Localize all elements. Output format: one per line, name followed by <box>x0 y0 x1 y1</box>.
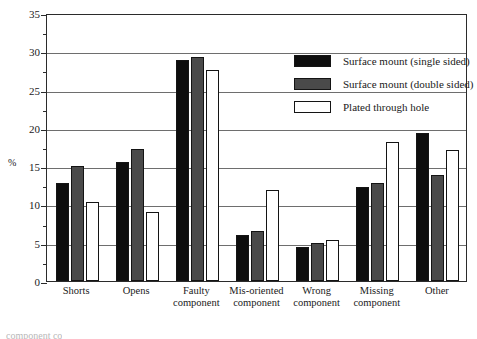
y-axis-tick <box>41 53 47 54</box>
bar <box>416 133 429 281</box>
x-axis-label: Mis-orientedcomponent <box>226 285 286 309</box>
y-axis-tick-label: 10 <box>12 200 40 211</box>
x-axis-label: Missingcomponent <box>347 285 407 309</box>
y-axis-tick-label: 5 <box>12 238 40 249</box>
x-axis-label-line: Wrong <box>287 285 347 297</box>
y-axis-minor-tick <box>43 72 47 73</box>
legend-label-series-1: Surface mount (single sided) <box>343 55 470 67</box>
bar-group <box>47 15 107 281</box>
bar <box>116 162 129 281</box>
y-axis-tick <box>41 92 47 93</box>
legend-item: Plated through hole <box>294 97 473 117</box>
y-axis-tick-label: 35 <box>12 9 40 20</box>
y-axis-tick-label: 25 <box>12 85 40 96</box>
bar <box>356 187 369 281</box>
bar-group <box>107 15 167 281</box>
y-axis-tick-label: 30 <box>12 47 40 58</box>
x-axis-label: Wrongcomponent <box>287 285 347 309</box>
y-axis-minor-tick <box>43 264 47 265</box>
x-axis-label-line: component <box>347 297 407 309</box>
x-axis-category-labels: ShortsOpensFaultycomponentMis-orientedco… <box>46 285 467 329</box>
legend-label-series-3: Plated through hole <box>343 101 429 113</box>
bar <box>191 57 204 281</box>
bar <box>236 235 249 281</box>
x-axis-label-line: Mis-oriented <box>226 285 286 297</box>
x-axis-label-line: Other <box>407 285 467 297</box>
legend-swatch-series-1 <box>294 55 331 67</box>
y-axis-tick <box>41 130 47 131</box>
x-axis-label-line: component <box>287 297 347 309</box>
y-axis-minor-tick <box>43 226 47 227</box>
bar <box>386 142 399 281</box>
bar <box>311 243 324 281</box>
legend-item: Surface mount (double sided) <box>294 74 473 94</box>
bar <box>131 149 144 281</box>
bar <box>431 175 444 281</box>
x-axis-label: Other <box>407 285 467 297</box>
y-axis-minor-tick <box>43 111 47 112</box>
x-axis-label-line: Shorts <box>46 285 106 297</box>
y-axis-tick <box>41 15 47 16</box>
bar <box>71 166 84 281</box>
y-axis-tick <box>41 206 47 207</box>
x-axis-label: Shorts <box>46 285 106 297</box>
y-axis-minor-tick <box>43 149 47 150</box>
y-axis-title: % <box>8 157 16 168</box>
y-axis-tick-label: 0 <box>12 277 40 288</box>
legend-swatch-series-2 <box>294 78 331 90</box>
bar <box>266 190 279 281</box>
y-axis-tick <box>41 245 47 246</box>
plot-area: Surface mount (single sided) Surface mou… <box>46 14 467 282</box>
legend-swatch-series-3 <box>294 101 331 113</box>
legend-item: Surface mount (single sided) <box>294 51 473 71</box>
x-axis-label-line: Faulty <box>166 285 226 297</box>
bar <box>146 212 159 281</box>
bar <box>446 150 459 281</box>
y-axis-tick <box>41 168 47 169</box>
bar <box>206 70 219 281</box>
y-axis-minor-tick <box>43 34 47 35</box>
x-axis-label-line: component <box>166 297 226 309</box>
x-axis-label: Opens <box>106 285 166 297</box>
bar-group <box>167 15 227 281</box>
bar-group <box>227 15 287 281</box>
legend-label-series-2: Surface mount (double sided) <box>343 78 473 90</box>
bar <box>56 183 69 281</box>
bar <box>371 183 384 281</box>
bar <box>251 231 264 281</box>
bar <box>296 247 309 281</box>
x-axis-label: Faultycomponent <box>166 285 226 309</box>
x-axis-label-line: Opens <box>106 285 166 297</box>
bar <box>326 240 339 281</box>
y-axis-tick-label: 20 <box>12 123 40 134</box>
x-axis-label-line: component <box>226 297 286 309</box>
y-axis-minor-tick <box>43 187 47 188</box>
chart-legend: Surface mount (single sided) Surface mou… <box>294 51 473 120</box>
y-axis-tick <box>41 283 47 284</box>
bar <box>86 202 99 281</box>
x-axis-label-line: Missing <box>347 285 407 297</box>
figure-caption-fragment: component co <box>6 330 62 339</box>
bar <box>176 60 189 281</box>
